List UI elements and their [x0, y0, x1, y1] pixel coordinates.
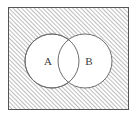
- set-b-label: B: [85, 55, 92, 67]
- venn-diagram-figure: A B: [0, 0, 137, 120]
- venn-diagram-canvas: A B: [0, 0, 137, 120]
- set-a-label: A: [44, 55, 52, 67]
